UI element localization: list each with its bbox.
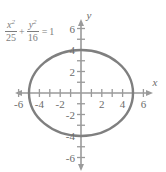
x-tick-label: 2 <box>99 98 105 110</box>
fraction-y-squared-over-16: y2 16 <box>27 20 39 43</box>
equals-sign: = <box>39 27 50 37</box>
y-tick-label: -4 <box>66 130 76 142</box>
y-axis <box>78 19 84 171</box>
denominator-25: 25 <box>5 32 17 43</box>
x-tick-label: 4 <box>120 98 126 110</box>
y-tick-label: -2 <box>66 109 75 121</box>
fraction-x-squared-over-25: x2 25 <box>5 20 17 43</box>
numerator-y-squared: y2 <box>28 20 38 31</box>
x-tick-label: -6 <box>14 98 24 110</box>
y-tick-label: 6 <box>70 23 76 35</box>
plus-operator: + <box>17 27 27 37</box>
exponent-two: 2 <box>33 18 37 26</box>
y-tick-label: 2 <box>70 66 76 78</box>
denominator-16: 16 <box>27 32 39 43</box>
numerator-x-squared: x2 <box>6 20 16 31</box>
exponent-two: 2 <box>11 18 15 26</box>
x-tick-label: -2 <box>56 98 65 110</box>
y-tick-label: -6 <box>66 152 76 164</box>
ellipse-graph-figure: -6 -4 -2 2 4 6 6 4 2 -2 -4 -6 x y x2 25 … <box>0 0 166 172</box>
equation-annotation: x2 25 + y2 16 = 1 <box>5 20 54 43</box>
right-hand-side-one: 1 <box>49 27 54 37</box>
y-axis-label: y <box>86 9 92 21</box>
x-axis-label: x <box>152 76 158 88</box>
x-tick-label: -4 <box>35 98 45 110</box>
x-tick-label: 6 <box>141 98 147 110</box>
y-tick-label: 4 <box>70 44 76 56</box>
